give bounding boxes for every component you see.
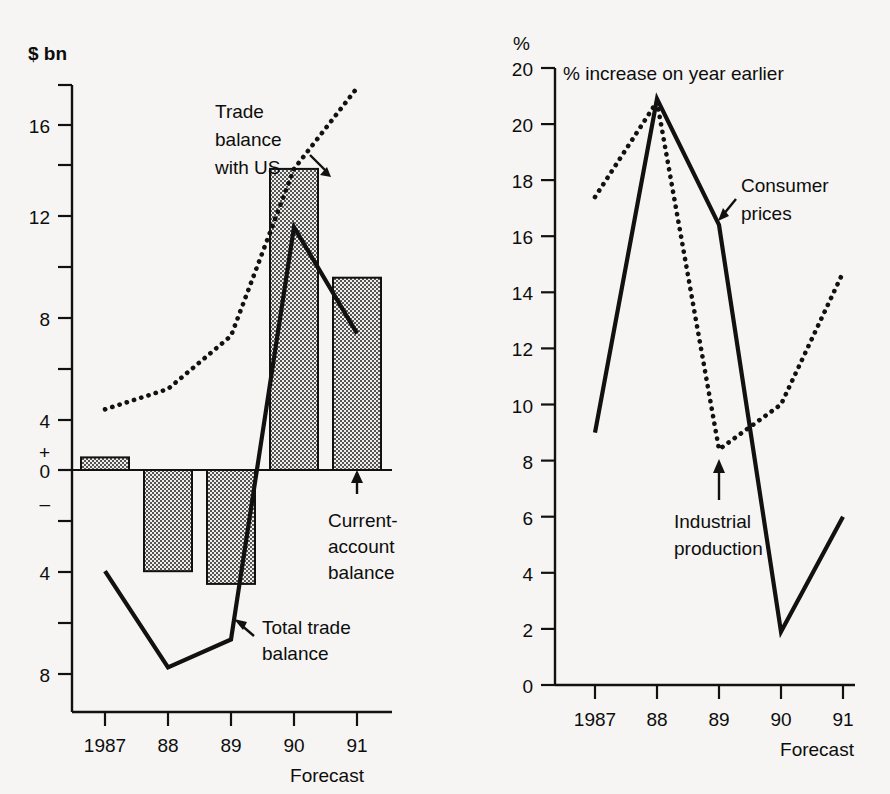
left-plus-sign: +	[39, 442, 50, 463]
left-ytick-12: 12	[29, 207, 50, 228]
right-ytick-10: 10	[512, 396, 533, 417]
annotation-current-account-balance: Current- account balance	[328, 470, 398, 583]
annot-ca-line1: Current-	[328, 510, 398, 531]
annot-cp-line2: prices	[741, 203, 792, 224]
right-ytick-2: 2	[522, 620, 533, 641]
left-ytick-16: 16	[29, 116, 50, 137]
right-y-ticks	[541, 68, 555, 685]
right-chart-panel: % % increase on year earlier	[445, 0, 890, 794]
annotation-trade-balance-with-us: Trade balance with US	[214, 101, 331, 178]
annot-ca-arrow-head	[351, 470, 363, 483]
right-x-ticks	[595, 685, 843, 699]
right-ytick-14: 14	[512, 283, 534, 304]
annot-us-line2: balance	[215, 129, 282, 150]
left-series-total-trade-balance	[105, 227, 357, 667]
left-chart-svg: $ bn 16 12	[0, 0, 445, 794]
right-chart-svg: % % increase on year earlier	[445, 0, 890, 794]
bar-1987	[81, 457, 129, 470]
left-ytick-0: 0	[39, 461, 50, 482]
annot-cp-line1: Consumer	[741, 175, 829, 196]
bar-90	[270, 169, 318, 470]
left-forecast-label: Forecast	[290, 765, 365, 786]
annot-ip-line1: Industrial	[674, 511, 751, 532]
annot-us-line1: Trade	[215, 101, 264, 122]
right-xtick-1987: 1987	[574, 709, 616, 730]
right-ytick-8: 8	[522, 452, 533, 473]
right-xtick-89: 89	[708, 709, 729, 730]
right-unit-label: %	[513, 33, 530, 54]
right-ytick-6: 6	[522, 508, 533, 529]
annot-tt-line1: Total trade	[262, 617, 351, 638]
left-unit-label: $ bn	[28, 43, 67, 64]
right-ytick-22: 20	[512, 59, 533, 80]
right-ytick-0: 0	[522, 676, 533, 697]
left-xtick-90: 90	[283, 735, 304, 756]
right-forecast-label: Forecast	[780, 739, 855, 760]
annot-ca-line3: balance	[328, 562, 395, 583]
right-ytick-18: 18	[512, 171, 533, 192]
left-ytick-8: 8	[39, 309, 50, 330]
left-y-major-ticks	[58, 85, 72, 674]
left-ytick-neg4: 4	[39, 563, 50, 584]
left-ytick-4: 4	[39, 411, 50, 432]
right-ytick-12: 12	[512, 339, 533, 360]
right-ytick-4: 4	[522, 564, 533, 585]
right-subtitle: % increase on year earlier	[563, 63, 784, 84]
annot-ip-arrow-head	[713, 459, 725, 473]
left-chart-panel: $ bn 16 12	[0, 0, 445, 794]
left-xtick-89: 89	[220, 735, 241, 756]
right-series-industrial-production	[595, 102, 843, 450]
bar-88	[144, 470, 192, 571]
annot-tt-line2: balance	[262, 643, 329, 664]
annot-us-line3: with US	[214, 157, 280, 178]
annotation-consumer-prices: Consumer prices	[718, 175, 829, 224]
left-xtick-88: 88	[157, 735, 178, 756]
left-x-ticks	[105, 712, 357, 726]
left-ytick-neg8: 8	[39, 665, 50, 686]
annot-ip-line2: production	[674, 538, 763, 559]
annotation-total-trade-balance: Total trade balance	[234, 617, 351, 664]
left-xtick-91: 91	[346, 735, 367, 756]
right-xtick-90: 90	[770, 709, 791, 730]
left-xtick-1987: 1987	[84, 735, 126, 756]
annotation-industrial-production: Industrial production	[674, 459, 763, 559]
right-ytick-16: 16	[512, 227, 533, 248]
right-ytick-20: 20	[512, 115, 533, 136]
two-panel-economic-chart-figure: $ bn 16 12	[0, 0, 890, 794]
right-xtick-91: 91	[832, 709, 853, 730]
annot-us-arrow-head	[320, 167, 331, 177]
annot-ca-line2: account	[328, 536, 395, 557]
right-xtick-88: 88	[646, 709, 667, 730]
left-minus-sign: –	[39, 493, 50, 514]
